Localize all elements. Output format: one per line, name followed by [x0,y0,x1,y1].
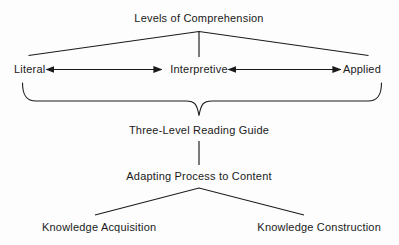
node-knowledge-construction: Knowledge Construction [257,221,381,234]
node-knowledge-acquisition: Knowledge Acquisition [42,221,156,234]
node-literal: Literal [14,63,45,76]
node-interpretive: Interpretive [170,63,227,76]
node-adapting-process-to-content: Adapting Process to Content [126,170,271,183]
diagram-connector-layer [0,0,399,245]
diagram-title: Levels of Comprehension [134,12,263,25]
levels-brace-connector [23,83,382,116]
comprehension-levels-diagram: Levels of Comprehension Literal Interpre… [0,0,399,245]
node-applied: Applied [343,63,381,76]
adapting-fan-connector [95,188,304,215]
node-three-level-reading-guide: Three-Level Reading Guide [129,124,269,137]
